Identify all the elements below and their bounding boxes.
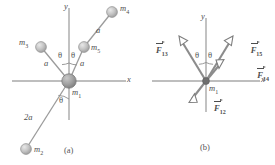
mass-m2 (21, 144, 32, 155)
angle-label-theta-left-b: θ (195, 51, 199, 60)
mass-label-m1-a: m1 (72, 88, 81, 99)
angle-label-theta-left-a: θ (58, 51, 62, 60)
mass-m5 (79, 42, 90, 53)
panel-b-graphic (138, 0, 275, 165)
arc-theta-left-a (62, 63, 69, 65)
mass-label-m1-b: m1 (209, 84, 218, 95)
x-axis-label-a: x (127, 75, 131, 84)
force-label-F13: F13 (156, 45, 168, 55)
distance-label-m2: 2a (24, 113, 33, 122)
angle-label-theta-right-a: θ (71, 51, 75, 60)
mass-m4 (107, 7, 118, 18)
distance-label-m4: a (96, 26, 100, 35)
arc-theta-right-b (206, 63, 213, 65)
vector-shaft-F13 (181, 40, 206, 81)
panel-b: y x F13 F15 F14 F12 m1 θ θ (b) (138, 0, 275, 165)
y-axis-label-b: y (201, 12, 205, 21)
angle-label-theta-right-b: θ (208, 51, 212, 60)
mass-label-m5: m5 (91, 43, 100, 54)
panel-a-caption: (a) (64, 146, 73, 155)
arc-theta-right-a (69, 63, 77, 65)
arrowhead-F15 (224, 36, 233, 46)
mass-label-m3: m3 (19, 38, 28, 49)
panel-a-graphic (0, 0, 138, 165)
force-label-F12: F12 (214, 103, 226, 113)
panel-a: y x m3 m5 m4 m2 m1 a a a 2a θ θ θ (a) (0, 0, 138, 165)
force-label-F14: F14 (257, 70, 269, 80)
distance-label-m3: a (44, 59, 48, 68)
figure-root: y x m3 m5 m4 m2 m1 a a a 2a θ θ θ (a) (0, 0, 275, 165)
distance-label-m5: a (80, 59, 84, 68)
panel-b-caption: (b) (200, 143, 210, 152)
mass-m3 (36, 42, 47, 53)
arc-theta-left-b (199, 63, 206, 65)
y-axis-label-a: y (64, 2, 68, 11)
arrowhead-F13 (179, 36, 188, 46)
force-label-F15: F15 (251, 45, 263, 55)
mass-label-m2: m2 (34, 145, 43, 156)
mass-label-m4: m4 (120, 4, 129, 15)
angle-label-theta-lower-a: θ (59, 96, 63, 105)
